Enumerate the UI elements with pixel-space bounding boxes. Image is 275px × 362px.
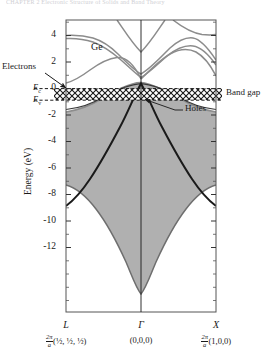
y-tick-label-minus8: -8 [34, 189, 56, 199]
material-label-ge: Ge [91, 42, 103, 52]
x-point-symbol-X: X [202, 320, 230, 330]
band-structure-figure: CHAPTER 2 Electronic Structure of Solids… [0, 0, 275, 362]
y-tick-label-minus10: -10 [29, 216, 56, 226]
conduction-edge-label: Ec [33, 83, 41, 94]
band-curve-conduction-4 [173, 20, 216, 35]
ev-subscript: v [38, 100, 41, 106]
x-point-coord-X: 2π a (1,0,0) [183, 334, 249, 348]
y-tick-label-minus12: -12 [29, 242, 56, 252]
band-gap-hatched-region [54, 89, 222, 101]
band-curve-conduction-X-valley [141, 50, 216, 79]
x-point-coord-L: 2π a (½, ½, ½) [32, 334, 100, 348]
band-diagram-plot [0, 0, 275, 362]
y-tick-label-minus2: -2 [34, 110, 56, 120]
y-tick-label-2: 2 [34, 57, 56, 67]
y-axis-title: Energy (eV) [24, 148, 34, 195]
y-tick-label-4: 4 [34, 30, 56, 40]
band-curve-conduction-L-valley [66, 57, 141, 83]
x-point-symbol-L: L [52, 320, 80, 330]
coord-X-text: (1,0,0) [208, 336, 231, 346]
band-gap-label: Band gap [226, 88, 260, 97]
x-point-coord-Gamma: (0,0,0) [113, 336, 169, 345]
ec-subscript: c [38, 88, 41, 94]
y-tick-label-minus4: -4 [34, 136, 56, 146]
electrons-label: Electrons [2, 62, 36, 71]
valence-edge-label: Ev [33, 95, 41, 106]
two-pi-over-a-L: 2π a [46, 334, 54, 348]
x-point-symbol-Gamma: Γ [127, 320, 155, 330]
coord-L-text: (½, ½, ½) [53, 336, 86, 346]
y-tick-label-minus6: -6 [34, 163, 56, 173]
holes-label: Holes [185, 104, 206, 113]
